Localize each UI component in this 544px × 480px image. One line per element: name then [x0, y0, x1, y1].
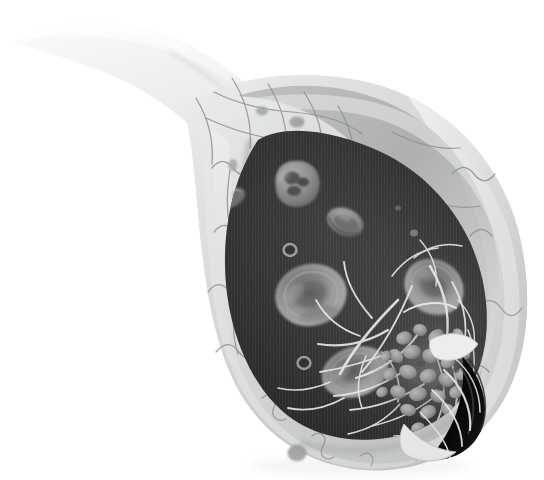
illustration-stage: Blood vessel cross-section with thrombus…	[0, 0, 544, 480]
leukocyte-membrane	[275, 161, 319, 207]
platelet	[395, 205, 401, 210]
endothelial-nucleus	[229, 159, 238, 171]
endothelial-nucleus	[290, 117, 305, 128]
endothelial-nucleus	[256, 107, 268, 116]
blood-vessel-illustration	[0, 0, 544, 480]
figure-ground-shadow	[250, 456, 470, 476]
leukocyte	[274, 161, 320, 207]
platelet	[410, 230, 418, 237]
